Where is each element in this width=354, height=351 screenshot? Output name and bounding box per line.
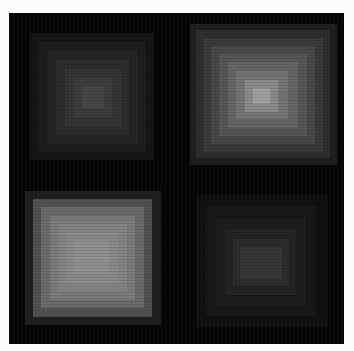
dark-panel <box>9 13 344 344</box>
square-ring-5 <box>240 247 282 279</box>
bottom-right-concentric-squares <box>9 13 344 344</box>
image-canvas <box>0 0 354 351</box>
